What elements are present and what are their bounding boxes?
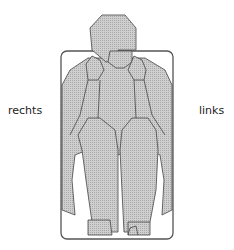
right-side-label: rechts [8, 104, 42, 117]
left-side-label: links [199, 104, 224, 117]
left-foot [128, 222, 150, 235]
left-leg [120, 118, 158, 232]
body-figure-diagram [0, 0, 234, 250]
right-foot [88, 220, 112, 235]
right-leg [78, 118, 118, 232]
